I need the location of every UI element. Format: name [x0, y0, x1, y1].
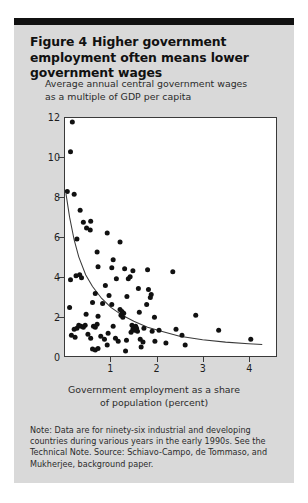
scatter-point — [124, 338, 129, 343]
scatter-point — [70, 119, 75, 124]
scatter-point — [137, 310, 142, 315]
x-axis-tick-mark — [157, 357, 158, 362]
scatter-point — [68, 277, 73, 282]
x-axis-tick-label: 2 — [145, 363, 169, 374]
scatter-point — [102, 337, 107, 342]
scatter-point — [96, 346, 101, 351]
scatter-point — [111, 324, 116, 329]
scatter-point — [140, 340, 145, 345]
scatter-point — [79, 275, 84, 280]
scatter-point — [111, 257, 116, 262]
scatter-point — [150, 329, 155, 334]
scatter-point — [123, 349, 128, 354]
scatter-point — [84, 312, 89, 317]
scatter-point — [90, 300, 95, 305]
scatter-point — [157, 328, 162, 333]
y-axis-tick-mark — [58, 197, 64, 198]
scatter-point — [152, 339, 157, 344]
scatter-point — [109, 265, 114, 270]
figure-panel: Figure 4Higher government employment oft… — [14, 18, 294, 483]
scatter-point — [183, 343, 188, 348]
scatter-point — [74, 236, 79, 241]
scatter-point — [170, 269, 175, 274]
scatter-point — [152, 315, 157, 320]
scatter-point — [248, 337, 253, 342]
x-axis-tick-label: 3 — [191, 363, 215, 374]
scatter-point — [88, 219, 93, 224]
x-axis-label-line-2: of population (percent) — [44, 397, 264, 410]
x-axis-tick-mark — [249, 357, 250, 362]
scatter-point — [174, 327, 179, 332]
scatter-point — [100, 301, 105, 306]
x-axis-tick-mark — [203, 357, 204, 362]
x-axis-tick-label: 4 — [237, 363, 261, 374]
scatter-point — [141, 326, 146, 331]
scatter-point — [116, 339, 121, 344]
y-axis-tick-label: 2 — [40, 312, 60, 323]
scatter-point — [179, 333, 184, 338]
scatter-point — [130, 268, 135, 273]
scatter-point — [88, 336, 93, 341]
scatter-point — [72, 327, 77, 332]
y-axis-tick-label: 4 — [40, 272, 60, 283]
scatter-point — [65, 189, 70, 194]
y-axis-tick-label: 12 — [40, 112, 60, 123]
x-axis-tick-labels: 1234 — [64, 363, 277, 377]
y-axis-tick-mark — [58, 277, 64, 278]
scatter-point — [96, 264, 101, 269]
scatter-point — [129, 330, 134, 335]
y-axis-tick-label: 8 — [40, 192, 60, 203]
scatter-point — [78, 208, 83, 213]
scatter-point — [109, 302, 114, 307]
scatter-point — [163, 341, 168, 346]
scatter-point — [193, 313, 198, 318]
scatter-point — [67, 305, 72, 310]
plot-area: 024681012 1234 — [14, 18, 294, 483]
scatter-point — [73, 335, 78, 340]
y-axis-tick-label: 0 — [40, 352, 60, 363]
scatter-point — [135, 329, 140, 334]
x-axis-tick-label: 1 — [98, 363, 122, 374]
scatter-point — [93, 291, 98, 296]
scatter-point — [107, 293, 112, 298]
plot-frame — [64, 117, 277, 357]
scatter-point — [105, 343, 110, 348]
scatter-point — [128, 274, 133, 279]
x-axis-tick-mark — [110, 357, 111, 362]
scatter-point — [72, 192, 77, 197]
x-axis-label: Government employment as a shareof popul… — [44, 384, 264, 409]
scatter-point — [68, 149, 73, 154]
scatter-point — [106, 331, 111, 336]
scatter-point — [144, 302, 149, 307]
scatter-plot-canvas — [65, 118, 276, 356]
x-axis-label-line-1: Government employment as a share — [44, 384, 264, 397]
scatter-point — [120, 315, 125, 320]
y-axis-tick-label: 6 — [40, 232, 60, 243]
scatter-point — [136, 286, 141, 291]
scatter-point — [103, 283, 108, 288]
scatter-point — [122, 266, 127, 271]
y-axis-tick-label: 10 — [40, 152, 60, 163]
scatter-point — [216, 328, 221, 333]
scatter-point — [145, 267, 150, 272]
scatter-point — [124, 294, 129, 299]
scatter-point — [114, 276, 119, 281]
scatter-point — [83, 323, 88, 328]
scatter-point — [146, 287, 151, 292]
fitted-trend-curve — [66, 193, 262, 344]
scatter-point — [105, 231, 110, 236]
scatter-point — [95, 322, 100, 327]
scatter-point — [148, 295, 153, 300]
y-axis-tick-labels: 024681012 — [34, 117, 60, 357]
y-axis-tick-mark — [58, 157, 64, 158]
y-axis-tick-mark — [58, 237, 64, 238]
scatter-point — [96, 314, 101, 319]
figure-note: Note: Data are for ninety-six industrial… — [30, 425, 282, 470]
scatter-point — [118, 239, 123, 244]
scatter-point — [95, 249, 100, 254]
scatter-point — [88, 228, 93, 233]
y-axis-tick-mark — [58, 317, 64, 318]
scatter-point — [81, 220, 86, 225]
scatter-point — [139, 345, 144, 350]
